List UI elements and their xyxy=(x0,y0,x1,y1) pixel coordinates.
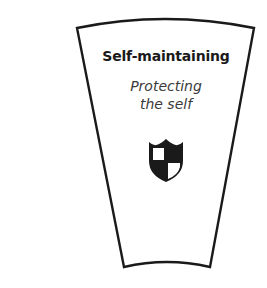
subtitle-line-1: Protecting xyxy=(66,77,266,95)
shield-icon xyxy=(147,139,185,183)
subtitle-line-2: the self xyxy=(66,95,266,113)
diagram-canvas: Self-maintaining Protecting the self xyxy=(0,0,267,288)
segment-title: Self-maintaining xyxy=(66,47,266,65)
fan-segment-outline xyxy=(0,0,267,288)
segment-subtitle: Protecting the self xyxy=(66,77,266,113)
